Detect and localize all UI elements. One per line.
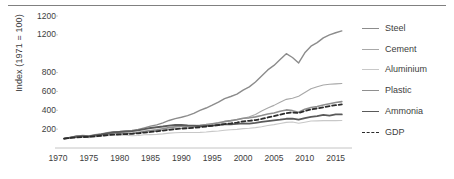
legend-swatch-aluminium-icon (362, 69, 379, 70)
legend-label: Cement (385, 45, 417, 54)
legend-item-steel[interactable]: Steel (362, 18, 454, 39)
legend-item-plastic[interactable]: Plastic (362, 80, 454, 101)
series-line-steel (64, 31, 342, 139)
legend-item-cement[interactable]: Cement (362, 39, 454, 60)
legend-label: Ammonia (385, 107, 423, 116)
legend-swatch-ammonia-icon (362, 111, 379, 112)
legend-label: GDP (385, 128, 405, 137)
legend: SteelCementAluminiumPlasticAmmoniaGDP (362, 18, 454, 143)
legend-label: Plastic (385, 86, 412, 95)
legend-item-gdp[interactable]: GDP (362, 122, 454, 143)
legend-item-ammonia[interactable]: Ammonia (362, 101, 454, 122)
legend-label: Steel (385, 24, 406, 33)
legend-swatch-steel-icon (362, 28, 379, 29)
x-axis-tick: 2015 (316, 154, 356, 163)
figure: Index (1971 = 100) 12001200800600400200 … (0, 0, 454, 179)
legend-label: Aluminium (385, 65, 427, 74)
legend-swatch-plastic-icon (362, 90, 379, 91)
legend-swatch-gdp-icon (362, 132, 379, 133)
legend-swatch-cement-icon (362, 49, 379, 50)
legend-item-aluminium[interactable]: Aluminium (362, 60, 454, 81)
